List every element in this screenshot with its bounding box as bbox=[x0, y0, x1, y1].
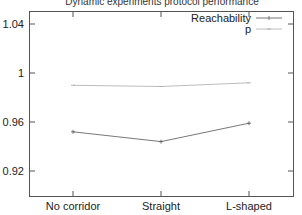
data-point-marker bbox=[71, 130, 75, 134]
chart-title: Dynamic experiments protocol performance bbox=[65, 0, 259, 7]
y-tick-label: 1.04 bbox=[3, 18, 24, 30]
y-tick-label: 0.92 bbox=[3, 165, 24, 177]
series-line-reachability bbox=[73, 123, 249, 141]
y-axis: 1.04 1 0.96 0.92 bbox=[3, 18, 294, 177]
series-layer bbox=[71, 83, 251, 144]
x-tick-label: No corridor bbox=[46, 200, 101, 212]
legend: Reachability p bbox=[191, 12, 282, 35]
x-tick-label: L-shaped bbox=[226, 200, 272, 212]
x-axis: No corridor Straight L-shaped bbox=[46, 12, 272, 212]
series-line-p bbox=[73, 83, 249, 87]
legend-label-reachability: Reachability bbox=[191, 12, 251, 24]
x-tick-label: Straight bbox=[142, 200, 180, 212]
data-point-marker bbox=[159, 140, 163, 144]
y-tick-label: 0.96 bbox=[3, 116, 24, 128]
line-chart: Dynamic experiments protocol performance… bbox=[0, 0, 302, 215]
data-point-marker bbox=[247, 121, 251, 125]
y-tick-label: 1 bbox=[18, 67, 24, 79]
legend-label-p: p bbox=[245, 23, 251, 35]
plot-frame bbox=[30, 12, 294, 197]
